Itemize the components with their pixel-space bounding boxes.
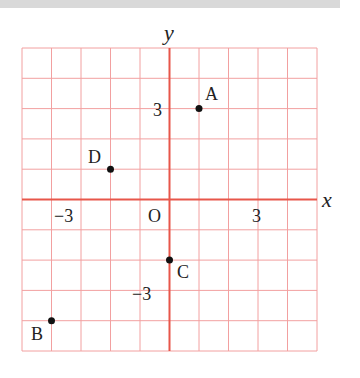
coordinate-plane: y x O −3 3 3 −3 A B C D <box>0 0 360 378</box>
origin-label: O <box>148 206 161 226</box>
y-axis-label: y <box>162 20 174 45</box>
y-tick-3: 3 <box>153 100 162 120</box>
axes <box>22 48 317 351</box>
point-d <box>107 166 114 173</box>
point-d-label: D <box>88 147 101 167</box>
x-tick-3: 3 <box>252 206 261 226</box>
x-tick-neg3: −3 <box>54 206 73 226</box>
point-a <box>196 105 203 112</box>
x-axis-label: x <box>321 187 332 212</box>
point-b <box>48 317 55 324</box>
point-c-label: C <box>177 262 189 282</box>
point-c <box>166 257 173 264</box>
point-a-label: A <box>205 84 218 104</box>
point-b-label: B <box>31 324 43 344</box>
y-tick-neg3: −3 <box>132 284 151 304</box>
